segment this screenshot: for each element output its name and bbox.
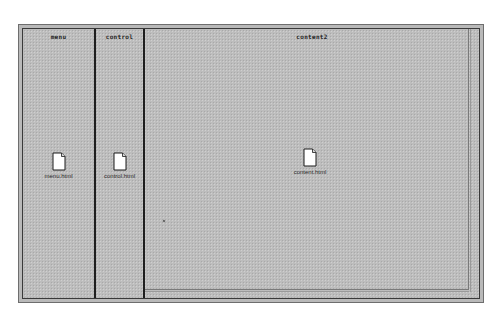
file-name: control.html xyxy=(104,173,135,179)
file-item-menu[interactable]: menu.html xyxy=(23,152,94,179)
file-item-content[interactable]: content.html xyxy=(290,148,330,175)
document-icon xyxy=(303,148,317,167)
frame-title-menu: menu xyxy=(23,33,94,40)
document-icon xyxy=(52,152,66,171)
nested-frame-border-horizontal-inner xyxy=(145,291,469,292)
nested-frame-border-vertical[interactable] xyxy=(468,29,469,290)
file-name: content.html xyxy=(294,169,327,175)
frame-control[interactable]: control control.html xyxy=(96,29,145,298)
frame-menu[interactable]: menu menu.html xyxy=(23,29,96,298)
frameset: menu menu.html control control.html cont… xyxy=(22,28,480,299)
file-item-control[interactable]: control.html xyxy=(96,152,143,179)
nested-frame-border-vertical-inner xyxy=(470,29,471,292)
frame-title-content2: content2 xyxy=(145,33,479,40)
document-icon xyxy=(113,152,127,171)
file-name: menu.html xyxy=(44,173,72,179)
frame-content2[interactable]: content2 content.html xyxy=(145,29,479,298)
frameset-outer-border: menu menu.html control control.html cont… xyxy=(18,24,484,303)
cursor-mark xyxy=(163,220,166,223)
nested-frame-border-horizontal[interactable] xyxy=(145,289,469,290)
frame-title-control: control xyxy=(96,33,143,40)
